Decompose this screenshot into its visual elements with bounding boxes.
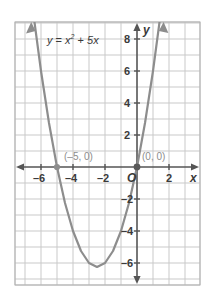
x-tick-label-2: 2 xyxy=(166,173,172,184)
parabola-figure: y = x2 + 5x 8 6 4 2 –2 –4 –6 –6 –4 –2 2 … xyxy=(0,0,214,302)
y-tick-label-8: 8 xyxy=(124,34,130,45)
x-tick-label-minus4: –4 xyxy=(65,173,77,184)
x-axis-name: x xyxy=(190,172,197,184)
plot-background xyxy=(15,22,200,285)
y-tick-label-2: 2 xyxy=(124,130,130,141)
y-tick-label-minus2: –2 xyxy=(121,194,133,205)
coordinate-plane xyxy=(0,0,214,302)
y-tick-label-minus4: –4 xyxy=(121,226,133,237)
y-axis-name: y xyxy=(143,24,150,36)
x-tick-label-minus6: –6 xyxy=(33,173,45,184)
equation-label: y = x2 + 5x xyxy=(47,33,99,46)
marker-root-origin xyxy=(134,164,141,171)
origin-label: O xyxy=(127,172,136,184)
equation-term: 5x xyxy=(87,34,99,46)
y-tick-label-4: 4 xyxy=(124,98,130,109)
point-label-0-0: (0, 0) xyxy=(142,152,165,162)
y-tick-label-minus6: –6 xyxy=(121,258,133,269)
point-label-minus5-0: (–5, 0) xyxy=(64,152,93,162)
marker-root-minus5 xyxy=(54,164,60,170)
y-tick-label-6: 6 xyxy=(124,66,130,77)
x-tick-label-minus2: –2 xyxy=(97,173,109,184)
